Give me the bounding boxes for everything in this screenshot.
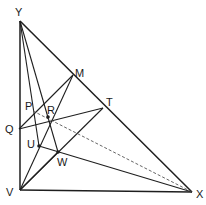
label-U: U <box>27 138 35 150</box>
segment-WV <box>20 152 58 190</box>
point-U <box>37 144 41 148</box>
label-V: V <box>6 186 14 198</box>
label-Q: Q <box>5 123 14 135</box>
label-T: T <box>106 96 113 108</box>
label-X: X <box>196 188 204 200</box>
geometry-diagram: Y M P R T Q U W V X <box>0 0 206 205</box>
point-W <box>56 150 60 154</box>
label-Y: Y <box>15 6 23 18</box>
label-R: R <box>47 104 55 116</box>
label-P: P <box>25 100 32 112</box>
segment-VX <box>20 190 192 192</box>
label-M: M <box>75 67 84 79</box>
segment-MV <box>20 75 73 190</box>
segment-YU <box>20 21 39 146</box>
label-W: W <box>57 156 68 168</box>
